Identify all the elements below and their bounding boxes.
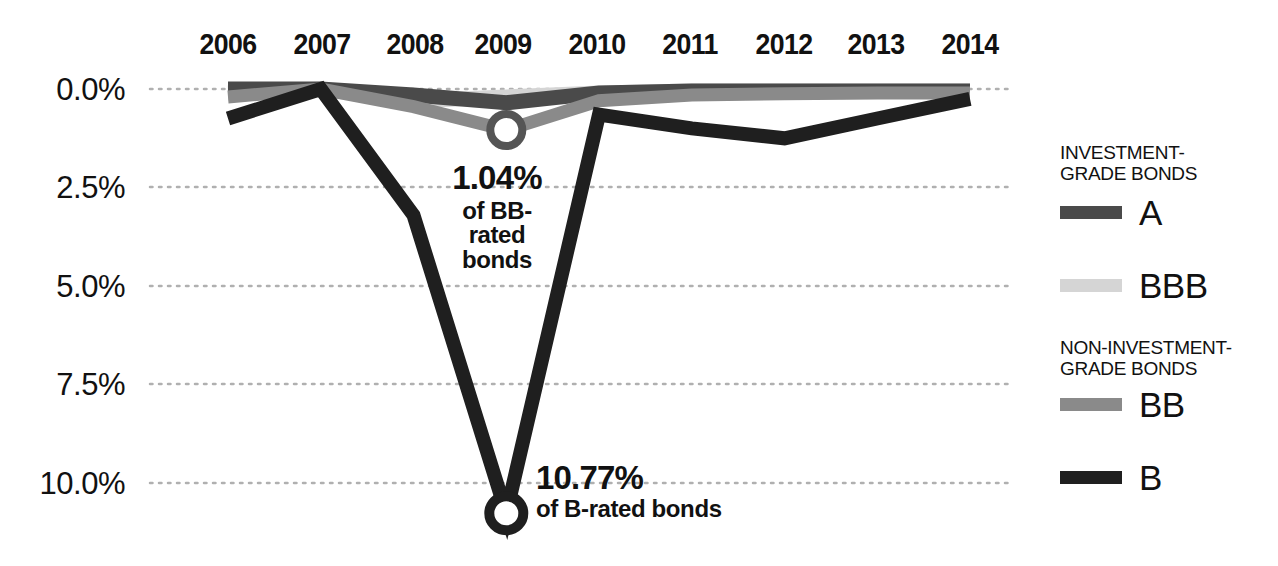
x-tick-label-2014: 2014 <box>927 30 1013 59</box>
legend-label-b: B <box>1139 460 1162 495</box>
legend-group-header-investment-grade: INVESTMENT- GRADE BONDS <box>1060 142 1275 185</box>
legend-item-a[interactable]: A <box>1060 195 1275 230</box>
legend-label-bb: BB <box>1139 387 1185 422</box>
legend-item-bbb[interactable]: BBB <box>1060 268 1275 303</box>
annotation-bb-callout: 1.04% of BB- rated bonds <box>432 161 562 272</box>
legend-swatch-b-icon <box>1060 471 1122 484</box>
legend-swatch-bb-icon <box>1060 398 1122 411</box>
annotation-bb-line2: rated <box>432 223 562 247</box>
y-tick-label-2p5: 2.5% <box>0 172 125 203</box>
chart-root: 0.0% 2.5% 5.0% 7.5% 10.0% 2006 2007 2008… <box>0 0 1278 566</box>
legend-swatch-bbb-icon <box>1060 279 1122 292</box>
annotation-b-line1: of B-rated bonds <box>536 497 856 521</box>
annotation-bb-line3: bonds <box>432 248 562 272</box>
marker-b-2009 <box>489 496 523 530</box>
x-tick-label-2010: 2010 <box>554 30 640 59</box>
x-tick-label-2009: 2009 <box>460 30 546 59</box>
annotation-b-callout: 10.77% of B-rated bonds <box>536 461 856 521</box>
x-tick-label-2012: 2012 <box>741 30 827 59</box>
annotation-b-value: 10.77% <box>536 461 856 495</box>
legend-item-b[interactable]: B <box>1060 460 1275 495</box>
x-tick-label-2006: 2006 <box>185 30 271 59</box>
marker-bb-2009 <box>490 114 522 146</box>
legend-label-bbb: BBB <box>1139 268 1208 303</box>
annotation-bb-line1: of BB- <box>432 199 562 223</box>
x-tick-label-2007: 2007 <box>279 30 365 59</box>
annotation-bb-value: 1.04% <box>432 161 562 195</box>
legend-label-a: A <box>1139 195 1162 230</box>
y-tick-label-7p5: 7.5% <box>0 369 125 400</box>
gridlines <box>150 89 1012 483</box>
legend-swatch-a-icon <box>1060 206 1122 219</box>
x-tick-label-2011: 2011 <box>647 30 733 59</box>
chart-legend: INVESTMENT- GRADE BONDS A BBB NON-INVEST… <box>1060 142 1275 495</box>
series-line-b <box>228 89 970 513</box>
y-tick-label-5: 5.0% <box>0 271 125 302</box>
y-tick-label-0: 0.0% <box>0 74 125 105</box>
legend-item-bb[interactable]: BB <box>1060 387 1275 422</box>
x-tick-label-2013: 2013 <box>833 30 919 59</box>
y-tick-label-10: 10.0% <box>0 468 125 499</box>
x-tick-label-2008: 2008 <box>372 30 458 59</box>
legend-group-header-non-investment-grade: NON-INVESTMENT- GRADE BONDS <box>1060 337 1275 380</box>
